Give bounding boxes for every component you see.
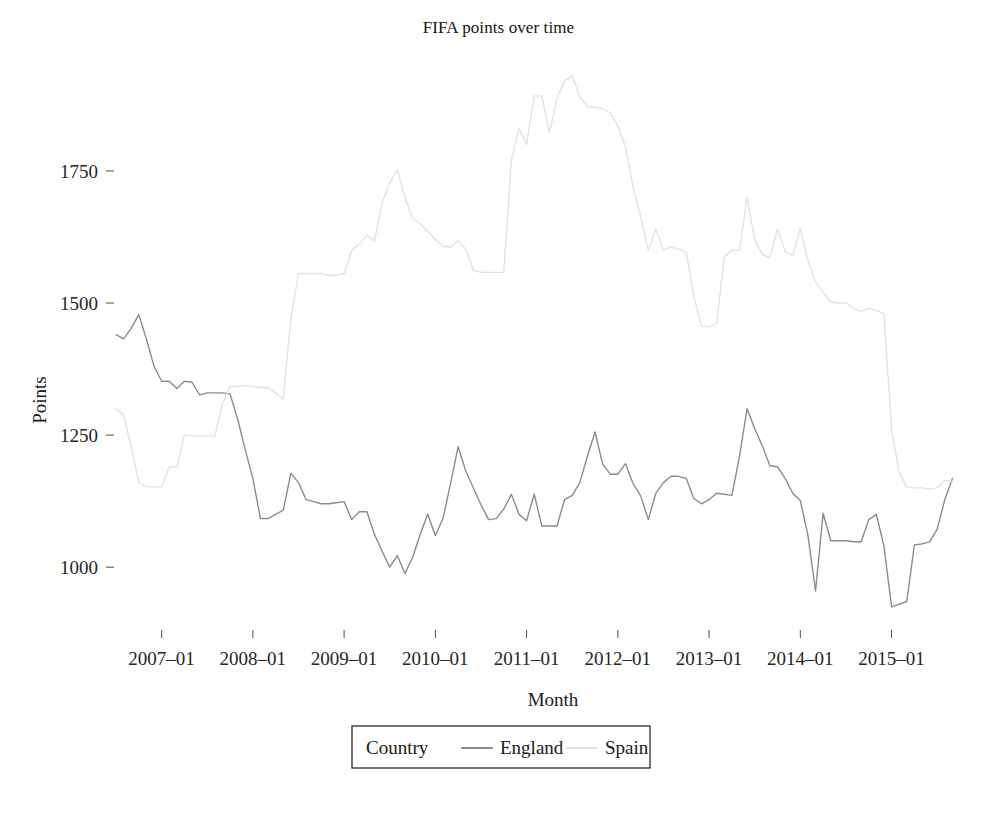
legend-label-england[interactable]: England (500, 737, 564, 758)
y-axis-title: Points (29, 376, 50, 424)
y-axis-tick-label: 1000 (60, 557, 98, 578)
x-axis-tick-label: 2013–01 (676, 648, 743, 669)
x-axis-tick-label: 2014–01 (767, 648, 834, 669)
legend-title: Country (366, 737, 429, 758)
legend-label-spain[interactable]: Spain (605, 737, 649, 758)
y-axis-tick-label: 1250 (60, 425, 98, 446)
chart-figure: FIFA points over time 1000125015001750 2… (0, 0, 997, 822)
x-axis: 2007–012008–012009–012010–012011–012012–… (128, 630, 924, 669)
y-axis-tick-label: 1500 (60, 293, 98, 314)
x-axis-tick-label: 2007–01 (128, 648, 195, 669)
chart-legend: CountryEnglandSpain (352, 726, 650, 768)
y-axis: 1000125015001750 (60, 161, 114, 578)
x-axis-tick-label: 2015–01 (858, 648, 925, 669)
x-axis-title: Month (528, 689, 579, 710)
x-axis-tick-label: 2009–01 (311, 648, 378, 669)
y-axis-tick-label: 1750 (60, 161, 98, 182)
series-line-england (116, 315, 952, 607)
x-axis-tick-label: 2008–01 (220, 648, 287, 669)
x-axis-tick-label: 2010–01 (402, 648, 469, 669)
line-chart-plot: 1000125015001750 2007–012008–012009–0120… (0, 0, 997, 822)
x-axis-tick-label: 2011–01 (494, 648, 560, 669)
x-axis-tick-label: 2012–01 (585, 648, 652, 669)
data-series-group (116, 76, 952, 607)
series-line-spain (116, 76, 952, 489)
